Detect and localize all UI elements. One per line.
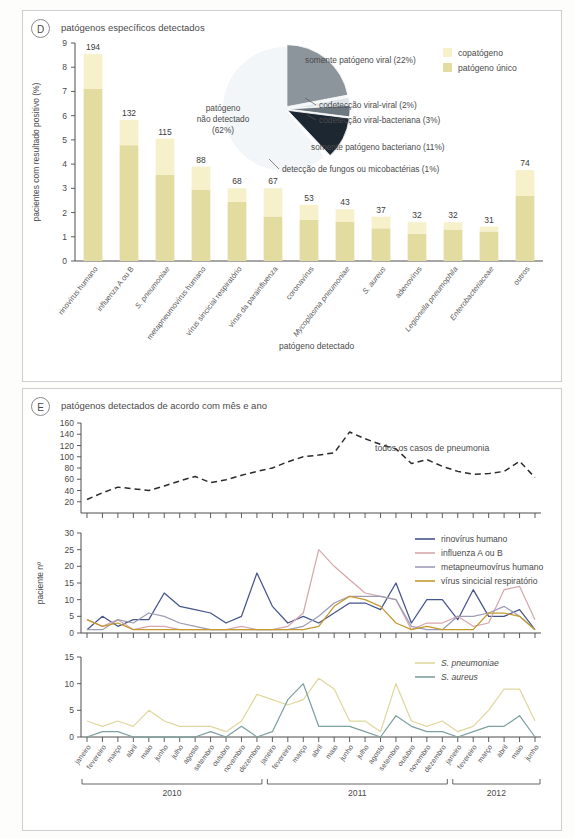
svg-text:20: 20 xyxy=(65,497,75,507)
svg-text:2: 2 xyxy=(62,208,67,218)
svg-text:0: 0 xyxy=(62,256,67,266)
year-bracket xyxy=(453,779,540,784)
bar-group xyxy=(120,120,139,261)
svg-text:3: 3 xyxy=(62,183,67,193)
month-label: junho xyxy=(337,743,355,763)
panel-e-tag: E xyxy=(31,397,50,416)
bar-segment-unique xyxy=(408,234,427,261)
svg-text:10: 10 xyxy=(65,595,75,605)
bar-group xyxy=(156,139,175,261)
bar-value-label: 74 xyxy=(520,158,530,168)
bar-segment-unique xyxy=(480,231,499,261)
bar-value-label: 132 xyxy=(122,108,136,118)
bar-segment-unique xyxy=(84,89,103,261)
bar-segment-copathogen xyxy=(264,188,283,216)
pie-label-not-detected: (62%) xyxy=(212,125,234,135)
legend-label: metapneumovírus humano xyxy=(441,562,543,572)
legend-label: influenza A ou B xyxy=(441,548,503,558)
bar-segment-copathogen xyxy=(516,170,535,195)
bar-category-label: coronavírus xyxy=(284,265,316,302)
month-label: abril xyxy=(494,743,510,760)
svg-text:7: 7 xyxy=(62,86,67,96)
month-label: março xyxy=(290,743,309,764)
bar-group xyxy=(444,222,463,261)
pie-label-not-detected: patógeno xyxy=(206,103,241,113)
bar-segment-unique xyxy=(516,196,535,261)
bar-segment-copathogen xyxy=(300,205,319,220)
bar-segment-unique xyxy=(300,220,319,261)
svg-text:0: 0 xyxy=(69,732,74,742)
svg-text:140: 140 xyxy=(60,429,74,439)
bar-group xyxy=(84,54,103,261)
bar-value-label: 67 xyxy=(268,176,278,186)
year-label: 2012 xyxy=(487,788,506,798)
pie-label-outside: codetecção viral-bacteriana (3%) xyxy=(319,115,441,125)
bar-value-label: 32 xyxy=(448,210,458,220)
panel-e-title: patógenos detectados de acordo com mês e… xyxy=(61,400,267,411)
bar-category-label: outros xyxy=(511,265,531,287)
panel-d-xlabel: patógeno detectado xyxy=(279,341,354,351)
bar-segment-unique xyxy=(156,175,175,261)
bar-category-label: influenza A ou B xyxy=(95,265,136,313)
pie-label-outside: codetecção viral-viral (2%) xyxy=(319,100,417,110)
svg-text:5: 5 xyxy=(62,135,67,145)
bar-segment-unique xyxy=(336,222,355,261)
bar-segment-copathogen xyxy=(120,120,139,145)
panel-d-title: patógenos específicos detectados xyxy=(61,22,205,33)
bar-segment-unique xyxy=(228,202,247,261)
bar-group xyxy=(192,167,211,261)
bar-category-label: S. pneumoniae xyxy=(133,265,172,311)
legend-swatch xyxy=(443,48,452,57)
figure-canvas: D patógenos específicos detectados 01234… xyxy=(0,0,574,839)
svg-text:4: 4 xyxy=(62,159,67,169)
svg-text:1: 1 xyxy=(62,232,67,242)
pie-label-outside: somente patógeno viral (22%) xyxy=(305,55,416,65)
bar-group xyxy=(408,222,427,261)
month-label: abril xyxy=(124,743,140,760)
year-bracket xyxy=(267,779,447,784)
svg-text:15: 15 xyxy=(65,578,75,588)
bar-value-label: 115 xyxy=(158,127,172,137)
legend-label: rinovírus humano xyxy=(441,534,508,544)
bar-category-label: S. aureus xyxy=(360,265,387,296)
bar-segment-copathogen xyxy=(84,54,103,89)
bar-segment-copathogen xyxy=(480,227,499,232)
bar-value-label: 53 xyxy=(304,193,314,203)
bar-segment-unique xyxy=(192,190,211,261)
panel-e-ylabel: paciente nº xyxy=(35,562,45,604)
bar-value-label: 68 xyxy=(232,176,242,186)
legend-swatch xyxy=(443,63,452,72)
panel-d-legend: copatógenopatógeno único xyxy=(443,48,517,73)
bar-value-label: 194 xyxy=(86,42,100,52)
line-series xyxy=(87,684,535,737)
pie-label-outside: somente patógeno bacteriano (11%) xyxy=(311,142,445,152)
year-bracket xyxy=(82,779,262,784)
panel-e-charts: 20406080100120140160todos os casos de pn… xyxy=(23,389,561,801)
month-label: junho xyxy=(522,743,540,763)
svg-text:25: 25 xyxy=(65,545,75,555)
panel-d: D patógenos específicos detectados 01234… xyxy=(22,10,562,382)
panel-d-chart: 0123456789pacientes com resultado positi… xyxy=(23,11,561,361)
legend-label: S. aureus xyxy=(441,672,478,682)
year-label: 2010 xyxy=(162,788,181,798)
svg-text:15: 15 xyxy=(65,652,75,662)
bar-group xyxy=(516,170,535,261)
bar-group xyxy=(372,217,391,261)
bar-value-label: 88 xyxy=(196,155,206,165)
svg-text:0: 0 xyxy=(69,628,74,638)
svg-text:30: 30 xyxy=(65,528,75,538)
bar-category-label: rinovírus humano xyxy=(56,265,99,317)
bar-category-label: adenovírus xyxy=(393,265,423,300)
svg-text:60: 60 xyxy=(65,474,75,484)
pie-label-not-detected: não detectado xyxy=(197,114,250,124)
legend-label: vírus sincicial respiratório xyxy=(441,576,538,586)
bar-segment-copathogen xyxy=(228,188,247,202)
bar-value-label: 32 xyxy=(412,210,422,220)
month-label: junho xyxy=(152,743,170,763)
bar-group xyxy=(336,209,355,261)
bar-segment-copathogen xyxy=(336,209,355,222)
legend-label: patógeno único xyxy=(458,63,517,73)
bar-group xyxy=(300,205,319,261)
panel-e: E patógenos detectados de acordo com mês… xyxy=(22,388,562,831)
bar-value-label: 43 xyxy=(340,197,350,207)
